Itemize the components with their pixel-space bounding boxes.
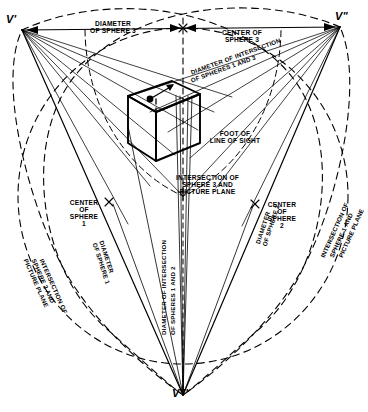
- label-vanishing-point-v-triple-prime: V''': [172, 388, 188, 400]
- label-intersection-of-sphere-3-and-picture-plane: INTERSECTION OF SPHERE 3 AND PICTURE PLA…: [150, 175, 265, 196]
- label-center-of-sphere-1: CENTER OF SPHERE 1: [58, 200, 110, 228]
- label-foot-of-line-of-sight: FOOT OF LINE OF SIGHT: [186, 131, 284, 145]
- foot-of-line-of-sight-dot: [147, 96, 154, 103]
- cube-object: [128, 81, 200, 161]
- label-diameter-of-intersection-spheres-1-and-2-col1: DIAMETER OF INTERSECTION: [161, 240, 168, 335]
- label-diameter-of-sphere-3: DIAMETER OF SPHERE 3: [58, 21, 168, 35]
- diameter-arrow-center-left: [170, 24, 181, 32]
- label-diameter-of-intersection-spheres-1-and-2-col2: OF SPHERES 1 AND 2: [170, 266, 177, 335]
- arrow-head-icon: [166, 84, 174, 91]
- diagram-canvas: V' V" V''' DIAMETER OF SPHERE 3 CENTER O…: [0, 0, 368, 412]
- diagram-svg: [0, 0, 368, 412]
- label-vanishing-point-v-prime: V': [6, 14, 16, 26]
- label-vanishing-point-v-double-prime: V": [335, 11, 348, 23]
